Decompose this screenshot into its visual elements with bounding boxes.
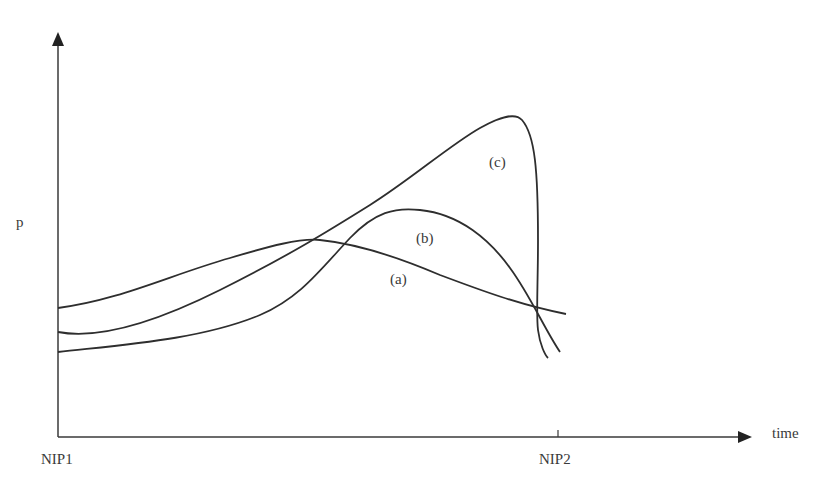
curve-a xyxy=(58,240,566,314)
curve-b-label: (b) xyxy=(416,230,434,247)
y-axis-label: p xyxy=(16,214,24,231)
diagram-svg xyxy=(0,0,826,480)
x-start-label: NIP1 xyxy=(41,451,73,468)
diagram-canvas: p time NIP1 NIP2 (a) (b) (c) xyxy=(0,0,826,480)
x-axis-arrow-icon xyxy=(738,431,752,443)
curve-b xyxy=(58,209,560,352)
x-end-label: NIP2 xyxy=(539,451,571,468)
curve-c xyxy=(58,116,548,358)
curve-a-label: (a) xyxy=(390,271,407,288)
y-axis-arrow-icon xyxy=(52,32,64,46)
curve-c-label: (c) xyxy=(489,154,506,171)
x-axis-label: time xyxy=(772,425,799,442)
